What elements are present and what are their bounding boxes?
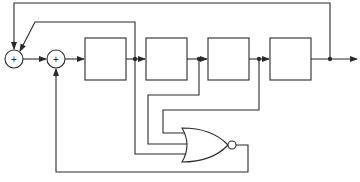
register-stage-3	[208, 38, 249, 80]
register-stage-1	[85, 38, 126, 80]
register-stage-2	[146, 38, 187, 80]
feedback-nor-to-adder2	[56, 69, 248, 172]
nor-output-bubble	[228, 141, 236, 149]
adder-2-symbol: +	[53, 54, 59, 65]
adder-1-symbol: +	[11, 54, 17, 65]
lfsr-block-diagram: + +	[0, 0, 360, 182]
adder-1: +	[5, 50, 23, 68]
adder-2: +	[47, 50, 65, 68]
nor-gate	[182, 128, 236, 162]
register-stage-4	[270, 38, 311, 80]
